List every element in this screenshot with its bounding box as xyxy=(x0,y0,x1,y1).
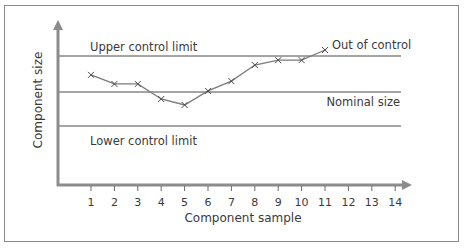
x-tick-label: 11 xyxy=(318,196,332,209)
y-axis-arrow-icon xyxy=(53,20,63,30)
x-marker-icon xyxy=(322,47,328,53)
x-tick-label: 6 xyxy=(205,196,212,209)
lcl-label: Lower control limit xyxy=(90,134,197,148)
nominal-label: Nominal size xyxy=(326,95,400,109)
x-tick-label: 7 xyxy=(228,196,235,209)
series-line xyxy=(91,50,325,105)
x-marker-icon xyxy=(205,88,211,94)
x-axis-label: Component sample xyxy=(184,211,301,225)
x-tick-label: 12 xyxy=(341,196,355,209)
x-tick-label: 9 xyxy=(275,196,282,209)
control-chart: 1234567891011121314 Upper control limit … xyxy=(0,0,464,248)
x-tick-label: 3 xyxy=(134,196,141,209)
x-tick-label: 5 xyxy=(181,196,188,209)
out-of-control-label: Out of control xyxy=(332,38,411,52)
x-axis-arrow-icon xyxy=(402,180,412,190)
y-axis-label: Component size xyxy=(31,52,45,149)
x-tick-label: 1 xyxy=(88,196,95,209)
x-tick-label: 8 xyxy=(251,196,258,209)
x-ticks: 1234567891011121314 xyxy=(88,186,403,209)
x-tick-label: 2 xyxy=(111,196,118,209)
ucl-label: Upper control limit xyxy=(90,40,198,54)
x-tick-label: 10 xyxy=(295,196,309,209)
x-tick-label: 13 xyxy=(365,196,379,209)
x-marker-icon xyxy=(88,72,94,78)
x-tick-label: 14 xyxy=(388,196,402,209)
x-tick-label: 4 xyxy=(158,196,165,209)
x-marker-icon xyxy=(228,78,234,84)
